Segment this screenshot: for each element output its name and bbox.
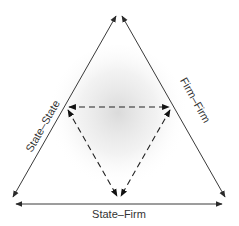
center-shading	[48, 45, 188, 195]
relations-triangle-diagram: State–State Firm–Firm State–Firm	[0, 0, 239, 226]
label-state-firm: State–Firm	[92, 208, 146, 220]
